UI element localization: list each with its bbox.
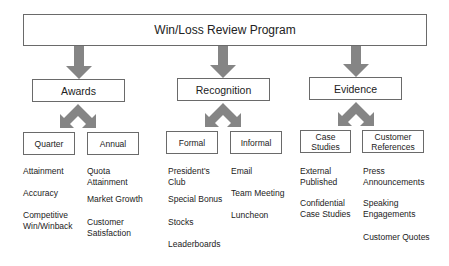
subcategory-box-informal: Informal (230, 131, 282, 154)
list-item: Email (231, 166, 252, 177)
category-box-recognition: Recognition (177, 78, 270, 101)
subcategory-label: Customer References (371, 132, 414, 152)
item-list-informal: Email Team Meeting Luncheon (231, 166, 291, 266)
list-item: President's Club (168, 166, 210, 187)
list-item: Stocks (168, 217, 194, 228)
subcategory-label: Quarter (35, 139, 64, 149)
list-item: Quota Attainment (87, 166, 128, 187)
list-item: Competitive Win/Winback (23, 210, 73, 231)
down-arrow-icon-recognition (210, 46, 236, 78)
list-item: Speaking Engagements (363, 198, 415, 219)
item-list-formal: President's Club Special Bonus Stocks Le… (168, 166, 228, 266)
category-label: Recognition (196, 84, 251, 96)
category-box-evidence: Evidence (309, 77, 402, 100)
down-arrow-icon-evidence (343, 46, 369, 77)
subcategory-box-customer-references: Customer References (362, 130, 424, 153)
subcategory-label: Informal (241, 138, 272, 148)
list-item: Customer Quotes (363, 232, 430, 243)
subcategory-label: Annual (100, 139, 126, 149)
item-list-case-studies: External Published Confidential Case Stu… (300, 166, 360, 266)
split-arrow-icon-recognition (205, 103, 241, 127)
list-item: Customer Satisfaction (87, 217, 131, 238)
list-item: Leaderboards (168, 239, 220, 250)
category-box-awards: Awards (32, 79, 125, 102)
root-title: Win/Loss Review Program (154, 23, 295, 37)
list-item: Press Announcements (363, 166, 424, 187)
list-item: Market Growth (87, 194, 143, 205)
list-item: Accuracy (23, 188, 58, 199)
category-label: Evidence (334, 83, 377, 95)
item-list-customer-references: Press Announcements Speaking Engagements… (363, 166, 443, 266)
split-arrow-icon-awards (60, 104, 96, 128)
item-list-annual: Quota Attainment Market Growth Customer … (87, 166, 157, 266)
subcategory-box-annual: Annual (87, 132, 139, 155)
list-item: Attainment (23, 166, 64, 177)
list-item: Luncheon (231, 210, 268, 221)
list-item: Confidential Case Studies (300, 198, 351, 219)
subcategory-label: Formal (179, 138, 205, 148)
split-arrow-icon-evidence (338, 102, 374, 126)
subcategory-label: Case Studies (311, 132, 339, 152)
list-item: External Published (300, 166, 337, 187)
list-item: Team Meeting (231, 188, 284, 199)
subcategory-box-case-studies: Case Studies (300, 130, 351, 153)
item-list-quarter: Attainment Accuracy Competitive Win/Winb… (23, 166, 83, 266)
subcategory-box-formal: Formal (166, 131, 218, 154)
subcategory-box-quarter: Quarter (23, 132, 75, 155)
down-arrow-icon-awards (66, 46, 92, 79)
root-box-win-loss-review-program: Win/Loss Review Program (23, 14, 427, 46)
list-item: Special Bonus (168, 194, 222, 205)
category-label: Awards (61, 85, 96, 97)
